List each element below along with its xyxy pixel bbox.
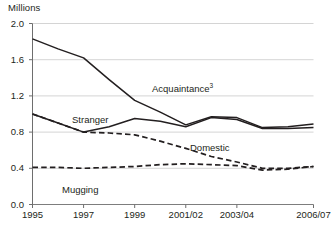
series-label-domestic: Domestic <box>190 142 230 153</box>
series-line-mugging <box>33 164 314 170</box>
x-tick-label: 2006/07 <box>284 209 335 220</box>
y-tick-label: 0.0 <box>2 199 24 210</box>
series-label-acquaintance: Acquaintance3 <box>152 82 213 94</box>
y-tick-label: 0.4 <box>2 162 24 173</box>
y-tick-label: 1.2 <box>2 90 24 101</box>
footnote-marker: 3 <box>210 82 214 89</box>
y-tick-label: 1.6 <box>2 54 24 65</box>
x-tick-label: 2003/04 <box>207 209 267 220</box>
series-label-stranger: Stranger <box>72 114 108 125</box>
y-tick-label: 2.0 <box>2 18 24 29</box>
series-label-mugging: Mugging <box>62 184 98 195</box>
y-tick-label: 0.8 <box>2 126 24 137</box>
